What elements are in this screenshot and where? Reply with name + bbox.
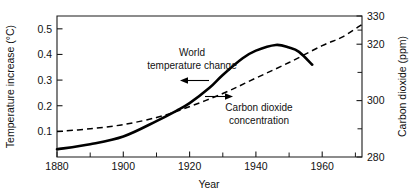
chart-figure: 0.1 0.2 0.3 0.4 0.5 Temperature increase…	[0, 0, 414, 196]
right-axis-ticklabels: 280 300 320 330	[367, 10, 385, 163]
left-ticklabel-3: 0.4	[37, 48, 52, 60]
x-ticklabel-3: 1940	[244, 160, 268, 172]
x-axis-minor-ticks	[90, 153, 355, 158]
carbon-dioxide-concentration-label-line1: Carbon dioxide	[225, 102, 293, 113]
carbon-dioxide-concentration-leader-arrow	[205, 93, 233, 99]
right-axis-title: Carbon dioxide (ppm)	[396, 36, 408, 137]
left-ticklabel-2: 0.3	[37, 74, 52, 86]
right-ticklabel-3: 330	[367, 10, 385, 22]
x-ticklabel-2: 1920	[178, 160, 202, 172]
carbon-dioxide-concentration-label-line2: concentration	[229, 115, 289, 126]
left-axis-ticklabels: 0.1 0.2 0.3 0.4 0.5	[37, 23, 52, 138]
left-ticklabel-4: 0.5	[37, 23, 52, 35]
x-axis-ticklabels: 1880 1900 1920 1940 1960	[45, 160, 334, 172]
world-temperature-change-label-line1: World	[179, 47, 205, 58]
right-ticklabel-0: 280	[367, 151, 385, 163]
left-ticklabel-0: 0.1	[37, 125, 52, 137]
x-ticklabel-4: 1960	[311, 160, 335, 172]
right-axis-minor-ticks	[358, 30, 363, 129]
world-temperature-change-label-line2: temperature change	[147, 60, 237, 71]
right-ticklabel-2: 320	[367, 38, 385, 50]
right-axis-ticks	[357, 16, 363, 157]
left-axis-ticks	[57, 29, 63, 132]
carbon-dioxide-concentration-annotation: Carbon dioxide concentration	[205, 93, 293, 126]
world-temperature-change-annotation: World temperature change	[147, 47, 237, 84]
right-ticklabel-1: 300	[367, 94, 385, 106]
world-temperature-change-leader-arrow	[180, 77, 209, 83]
carbon-dioxide-curve	[57, 24, 362, 131]
x-axis-ticks	[57, 152, 322, 158]
left-ticklabel-1: 0.2	[37, 100, 52, 112]
x-axis-title: Year	[198, 178, 220, 190]
x-ticklabel-0: 1880	[45, 160, 69, 172]
chart-canvas: 0.1 0.2 0.3 0.4 0.5 Temperature increase…	[0, 0, 414, 196]
left-axis-title: Temperature increase (°C)	[4, 25, 16, 148]
x-ticklabel-1: 1900	[112, 160, 136, 172]
